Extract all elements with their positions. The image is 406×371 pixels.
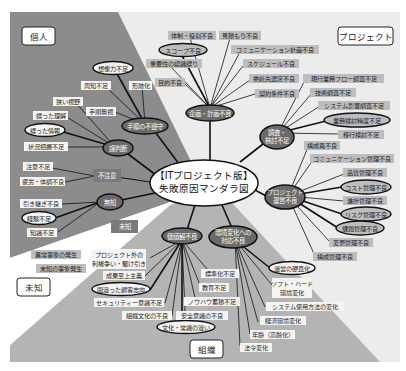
svg-text:未知: 未知 xyxy=(25,283,43,293)
svg-text:誤った理解: 誤った理解 xyxy=(36,112,66,120)
svg-text:コミュニケーション計画不良: コミュニケーション計画不良 xyxy=(236,46,314,54)
svg-text:間違った顧客志向: 間違った顧客志向 xyxy=(97,286,145,294)
svg-text:検討不足: 検討不足 xyxy=(265,136,290,145)
svg-text:スケジュール不良: スケジュール不良 xyxy=(247,60,295,68)
svg-text:目的不良: 目的不良 xyxy=(158,79,182,87)
mandala-diagram: 個人 プロジェクト 未知 組織 【ITプロジェクト版】 失敗原因マンダラ図 企画… xyxy=(0,0,406,371)
svg-text:周知不足: 周知不足 xyxy=(84,82,108,90)
svg-text:委託先選定不良: 委託先選定不良 xyxy=(253,75,295,83)
svg-text:プロジェクト: プロジェクト xyxy=(267,189,303,197)
svg-text:運営の硬直化: 運営の硬直化 xyxy=(274,265,310,273)
svg-text:進捗管理不良: 進捗管理不良 xyxy=(347,197,383,205)
svg-text:利権争い・駆け引き: 利権争い・駆け引き xyxy=(92,260,146,268)
svg-text:失敗原因マンダラ図: 失敗原因マンダラ図 xyxy=(159,183,249,194)
hub-unknown: 未知 xyxy=(111,220,138,233)
svg-text:形骸化: 形骸化 xyxy=(132,82,150,90)
svg-text:体制・役割不良: 体制・役割不良 xyxy=(171,32,213,40)
svg-text:個人: 個人 xyxy=(30,32,48,42)
svg-text:注意不足: 注意不足 xyxy=(26,163,50,171)
svg-text:重要性の認識誤り: 重要性の認識誤り xyxy=(150,60,198,68)
hub-environment: 環境変化への 対応不良 xyxy=(209,226,257,248)
quadrant-label-project: プロジェクト xyxy=(338,27,393,45)
svg-text:疲労・体調不良: 疲労・体調不良 xyxy=(22,178,64,186)
svg-text:企画・計画不良: 企画・計画不良 xyxy=(189,109,232,118)
svg-text:誤った情報: 誤った情報 xyxy=(30,127,60,135)
hub-investigation: 調査・ 検討不足 xyxy=(260,125,294,149)
svg-text:契約条件不良: 契約条件不良 xyxy=(259,90,295,98)
svg-text:経験不足: 経験不足 xyxy=(27,215,51,223)
svg-text:法令変化: 法令変化 xyxy=(244,344,268,352)
svg-text:構成管理不良: 構成管理不良 xyxy=(317,253,353,261)
svg-text:コスト管理不良: コスト管理不良 xyxy=(345,184,387,192)
svg-text:組織: 組織 xyxy=(198,345,216,355)
svg-text:未知の事象発生: 未知の事象発生 xyxy=(40,265,82,273)
svg-text:【ITプロジェクト版】: 【ITプロジェクト版】 xyxy=(155,170,254,181)
svg-text:異常事象の発生: 異常事象の発生 xyxy=(35,251,77,259)
svg-text:プロジェクト: プロジェクト xyxy=(339,32,393,42)
svg-text:成果至上主義: 成果至上主義 xyxy=(106,272,142,280)
svg-text:不注意: 不注意 xyxy=(98,171,116,180)
svg-text:ノウハウ蓄積不足: ノウハウ蓄積不足 xyxy=(188,298,236,306)
svg-text:スコープ不良: スコープ不良 xyxy=(165,47,201,55)
svg-text:未知: 未知 xyxy=(119,222,131,231)
svg-text:課題管理不良: 課題管理不良 xyxy=(342,225,378,233)
quadrant-label-unknown: 未知 xyxy=(17,278,50,296)
hub-ignorance: 無知 xyxy=(97,194,123,210)
svg-text:現行業務フロー調査不足: 現行業務フロー調査不足 xyxy=(311,75,377,83)
center-title: 【ITプロジェクト版】 失敗原因マンダラ図 xyxy=(150,160,258,206)
hub-procedure: 手順の不遵守 xyxy=(122,118,168,134)
svg-text:ソフト・ハード: ソフト・ハード xyxy=(271,280,313,287)
svg-text:プロジェクト外の: プロジェクト外の xyxy=(95,251,143,259)
hub-misjudgment: 誤判断 xyxy=(103,140,133,156)
svg-text:教育不足: 教育不足 xyxy=(202,284,226,292)
svg-text:構成員不良: 構成員不良 xyxy=(307,142,337,150)
svg-text:狭い視野: 狭い視野 xyxy=(56,98,80,106)
svg-text:見積もり不良: 見積もり不良 xyxy=(222,32,258,40)
svg-text:リスク管理不良: リスク管理不良 xyxy=(345,211,387,219)
hub-carelessness: 不注意 xyxy=(93,169,121,182)
svg-text:無知: 無知 xyxy=(104,198,116,207)
svg-text:年齢（高齢化）: 年齢（高齢化） xyxy=(252,331,294,339)
svg-text:文化・常識の違い: 文化・常識の違い xyxy=(162,324,210,332)
svg-text:価値観不良: 価値観不良 xyxy=(167,232,198,241)
svg-text:組織文化の不良: 組織文化の不良 xyxy=(126,312,168,320)
svg-text:対応不良: 対応不良 xyxy=(221,236,246,245)
quadrant-label-organization: 組織 xyxy=(190,340,223,358)
svg-text:変更管理不良: 変更管理不良 xyxy=(333,239,369,247)
svg-text:システム影響調査不足: システム影響調査不足 xyxy=(324,102,384,110)
svg-text:知識不足: 知識不足 xyxy=(30,229,54,237)
svg-text:技術調査不足: 技術調査不足 xyxy=(315,89,351,97)
quadrant-label-individual: 個人 xyxy=(22,27,55,45)
svg-text:業務検討精度不足: 業務検討精度不足 xyxy=(333,117,381,125)
hub-planning: 企画・計画不良 xyxy=(186,105,234,121)
svg-text:安全意識の不良: 安全意識の不良 xyxy=(181,312,223,320)
svg-text:セキュリティー意識不足: セキュリティー意識不足 xyxy=(96,299,162,307)
svg-text:運営不良: 運営不良 xyxy=(273,196,298,205)
svg-text:品質管理不良: 品質管理不良 xyxy=(347,169,383,177)
svg-text:引き継ぎ不良: 引き継ぎ不良 xyxy=(23,200,59,208)
svg-text:手順の不遵守: 手順の不遵守 xyxy=(127,122,164,131)
svg-text:調査・: 調査・ xyxy=(268,128,286,137)
svg-text:コミュニケーション管理不良: コミュニケーション管理不良 xyxy=(313,155,391,163)
svg-text:状況把握不足: 状況把握不足 xyxy=(28,143,64,151)
svg-text:手順無視: 手順無視 xyxy=(89,108,113,116)
svg-text:環境変化への: 環境変化への xyxy=(215,228,251,237)
svg-text:標準化不足: 標準化不足 xyxy=(205,270,235,278)
svg-text:移行検討不足: 移行検討不足 xyxy=(343,131,379,139)
svg-text:経済環境変化: 経済環境変化 xyxy=(265,317,301,325)
svg-text:誤判断: 誤判断 xyxy=(109,144,128,153)
svg-text:環境変化: 環境変化 xyxy=(280,289,304,297)
hub-project-management: プロジェクト 運営不良 xyxy=(265,185,305,209)
svg-text:システム使用方法の変化: システム使用方法の変化 xyxy=(272,303,338,311)
svg-text:想像力不足: 想像力不足 xyxy=(98,65,128,73)
hub-values: 価値観不良 xyxy=(162,228,202,244)
